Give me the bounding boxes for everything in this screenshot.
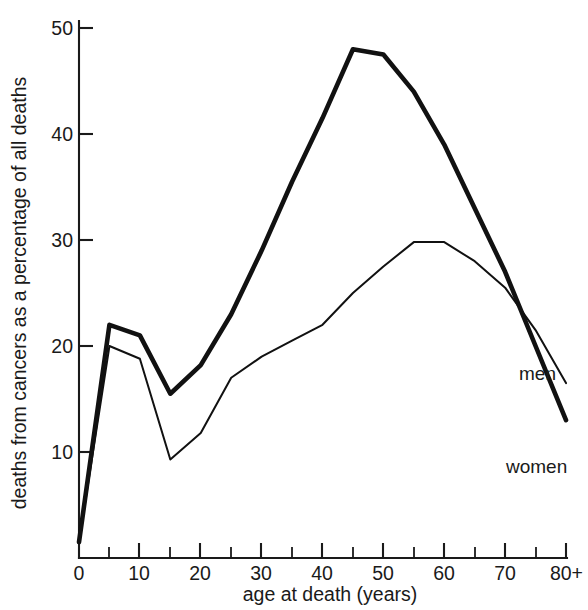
x-tick-label-40: 40 (311, 562, 333, 584)
y-tick-label-50: 50 (51, 17, 73, 39)
cancer-deaths-line-chart: deaths from cancers as a percentage of a… (0, 0, 588, 610)
x-axis-tick-labels: 0 10 20 30 40 50 60 70 80+ (74, 562, 583, 584)
y-tick-label-10: 10 (51, 441, 73, 463)
y-tick-label-40: 40 (51, 123, 73, 145)
x-axis-title: age at death (years) (243, 583, 418, 605)
y-tick-label-20: 20 (51, 335, 73, 357)
chart-canvas: deaths from cancers as a percentage of a… (0, 0, 588, 610)
x-tick-label-50: 50 (372, 562, 394, 584)
series-label-women: women (505, 456, 567, 477)
y-axis-title: deaths from cancers as a percentage of a… (8, 77, 30, 510)
x-tick-label-20: 20 (189, 562, 211, 584)
x-tick-label-80plus: 80+ (550, 562, 583, 584)
series-label-men: men (519, 363, 556, 384)
x-tick-label-30: 30 (250, 562, 272, 584)
y-tick-label-30: 30 (51, 229, 73, 251)
series-line-women (79, 242, 566, 542)
series-line-men (79, 49, 566, 542)
x-tick-label-10: 10 (128, 562, 150, 584)
x-tick-label-0: 0 (74, 562, 85, 584)
x-tick-label-70: 70 (494, 562, 516, 584)
x-tick-label-60: 60 (433, 562, 455, 584)
y-axis-ticks (79, 28, 93, 452)
y-axis-tick-labels: 50 40 30 20 10 (51, 17, 73, 463)
